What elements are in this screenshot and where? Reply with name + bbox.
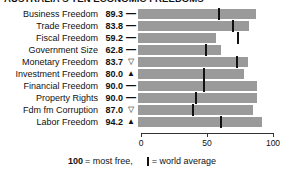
score-bar — [138, 57, 248, 67]
axis-tick-label: 50 — [202, 138, 211, 148]
legend-score-text: = most free, — [85, 155, 133, 167]
trend-same-icon: — — [124, 33, 138, 43]
score-bar — [138, 69, 244, 79]
row-score: 83.7 — [98, 57, 124, 67]
table-row: Fdm fm Corruption87.0▽ — [0, 104, 284, 116]
axis-tick — [273, 133, 274, 137]
score-bar — [138, 33, 216, 43]
trend-same-icon: — — [124, 21, 138, 31]
row-label: Labor Freedom — [0, 117, 98, 127]
score-bar — [138, 117, 262, 127]
world-average-tick — [205, 44, 207, 56]
trend-down-icon: ▽ — [124, 57, 138, 67]
row-label: Government Size — [0, 45, 98, 55]
bar-track — [138, 68, 282, 80]
trend-same-icon: — — [124, 93, 138, 103]
score-bar — [138, 9, 256, 19]
bar-track — [138, 44, 282, 56]
trend-up-icon: ▲ — [124, 69, 138, 79]
chart-legend: 100 = most free, = world average — [0, 155, 284, 167]
world-average-tick — [218, 8, 220, 20]
vertical-bar-icon — [147, 157, 149, 166]
bar-track — [138, 116, 282, 128]
world-average-tick — [232, 20, 234, 32]
axis-tick — [207, 133, 208, 137]
row-score: 59.2 — [98, 33, 124, 43]
bar-track — [138, 32, 282, 44]
table-row: Financial Freedom90.0— — [0, 80, 284, 92]
table-row: Fiscal Freedom59.2— — [0, 32, 284, 44]
row-label: Business Freedom — [0, 9, 98, 19]
score-bar — [138, 105, 253, 115]
world-average-tick — [203, 68, 205, 80]
axis-tick-label: 0 — [139, 138, 144, 148]
table-row: Monetary Freedom83.7▽ — [0, 56, 284, 68]
row-label: Trade Freedom — [0, 21, 98, 31]
axis-tick — [141, 133, 142, 137]
row-label: Fiscal Freedom — [0, 33, 98, 43]
row-label: Financial Freedom — [0, 81, 98, 91]
trend-up-icon: ▲ — [124, 117, 138, 127]
world-average-tick — [192, 104, 194, 116]
row-score: 94.2 — [98, 117, 124, 127]
table-row: Property Rights90.0— — [0, 92, 284, 104]
bar-track — [138, 8, 282, 20]
row-score: 62.8 — [98, 45, 124, 55]
freedom-rows: Business Freedom89.3—Trade Freedom83.8—F… — [0, 8, 284, 128]
row-score: 90.0 — [98, 81, 124, 91]
bar-track — [138, 20, 282, 32]
trend-same-icon: — — [124, 81, 138, 91]
world-average-tick — [236, 56, 238, 68]
page-title: AUSTRALIA'S TEN ECONOMIC FREEDOMS — [0, 0, 284, 5]
row-score: 80.0 — [98, 69, 124, 79]
trend-same-icon: — — [124, 45, 138, 55]
world-average-tick — [203, 80, 205, 92]
legend-average-text: = world average — [152, 155, 216, 167]
world-average-tick — [195, 92, 197, 104]
row-score: 87.0 — [98, 105, 124, 115]
table-row: Trade Freedom83.8— — [0, 20, 284, 32]
world-average-tick — [220, 116, 222, 128]
row-label: Property Rights — [0, 93, 98, 103]
bar-track — [138, 104, 282, 116]
trend-down-icon: ▽ — [124, 105, 138, 115]
score-bar — [138, 81, 257, 91]
row-score: 89.3 — [98, 9, 124, 19]
row-score: 83.8 — [98, 21, 124, 31]
score-bar — [138, 45, 221, 55]
bar-track — [138, 56, 282, 68]
row-score: 90.0 — [98, 93, 124, 103]
table-row: Labor Freedom94.2▲ — [0, 116, 284, 128]
legend-score-value: 100 — [68, 155, 83, 167]
row-label: Fdm fm Corruption — [0, 105, 98, 115]
row-label: Monetary Freedom — [0, 57, 98, 67]
x-axis: 050100 — [138, 133, 282, 153]
table-row: Government Size62.8— — [0, 44, 284, 56]
economic-freedoms-chart: AUSTRALIA'S TEN ECONOMIC FREEDOMS Busine… — [0, 0, 284, 177]
row-label: Investment Freedom — [0, 69, 98, 79]
axis-tick-label: 100 — [266, 138, 280, 148]
world-average-tick — [237, 32, 239, 44]
bar-track — [138, 92, 282, 104]
table-row: Investment Freedom80.0▲ — [0, 68, 284, 80]
bar-track — [138, 80, 282, 92]
chart-title-clip: AUSTRALIA'S TEN ECONOMIC FREEDOMS — [0, 0, 284, 7]
table-row: Business Freedom89.3— — [0, 8, 284, 20]
trend-same-icon: — — [124, 9, 138, 19]
